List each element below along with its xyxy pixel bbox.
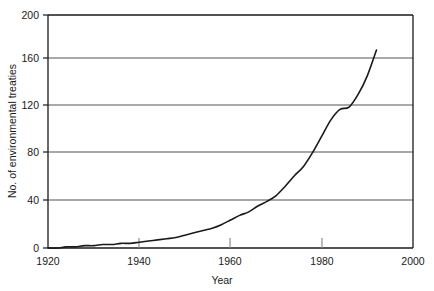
y-axis-title: No. of environmental treaties (6, 64, 18, 198)
y-tick-marks (43, 15, 48, 248)
y-tick-labels: 200 160 120 80 40 0 (21, 9, 39, 254)
x-tick-labels: 1920 1940 1960 1980 2000 (36, 255, 425, 267)
x-tick-label-2000: 2000 (401, 255, 425, 267)
y-tick-label-0: 0 (33, 242, 39, 254)
y-tick-label-200: 200 (21, 9, 39, 21)
line-chart-svg: 200 160 120 80 40 0 1920 1940 1960 1980 … (0, 0, 434, 291)
x-tick-label-1940: 1940 (127, 255, 151, 267)
y-tick-label-40: 40 (27, 194, 39, 206)
x-tick-label-1980: 1980 (310, 255, 334, 267)
y-tick-label-160: 160 (21, 52, 39, 64)
x-axis-title: Year (211, 274, 233, 286)
x-tick-label-1920: 1920 (36, 255, 60, 267)
plot-background (48, 15, 413, 248)
y-tick-label-80: 80 (27, 146, 39, 158)
y-tick-label-120: 120 (21, 99, 39, 111)
x-tick-label-1960: 1960 (218, 255, 242, 267)
chart-figure: 200 160 120 80 40 0 1920 1940 1960 1980 … (0, 0, 434, 291)
